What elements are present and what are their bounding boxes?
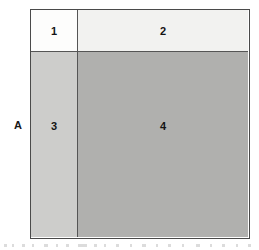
quadrant-cell-2: 2: [78, 10, 248, 52]
scan-artifact-mark: [78, 244, 87, 247]
scan-artifact-mark: [168, 244, 171, 247]
partition-outer-box: 1 2 3 4: [30, 9, 250, 239]
quadrant-cell-1: 1: [31, 10, 78, 52]
scan-artifact-mark: [210, 244, 212, 247]
scan-artifact-mark: [116, 244, 119, 247]
scan-artifact-mark: [142, 244, 146, 247]
quadrant-diagram-figure: A 1 2 3 4: [0, 0, 259, 250]
scan-artifact-strip: [0, 241, 259, 249]
scan-artifact-mark: [32, 244, 34, 247]
quadrant-label-2: 2: [160, 26, 166, 37]
scan-artifact-mark: [22, 244, 25, 247]
scan-artifact-mark: [56, 244, 58, 247]
scan-artifact-mark: [12, 244, 14, 247]
scan-artifact-mark: [44, 244, 48, 247]
scan-artifact-mark: [182, 244, 184, 247]
scan-artifact-mark: [104, 244, 106, 247]
scan-artifact-mark: [236, 244, 238, 247]
axis-label-a: A: [8, 117, 28, 133]
scan-artifact-mark: [4, 244, 7, 247]
quadrant-cell-4: 4: [78, 52, 248, 237]
scan-artifact-mark: [156, 244, 158, 247]
scan-artifact-mark: [94, 244, 97, 247]
scan-artifact-mark: [248, 244, 251, 247]
scan-artifact-mark: [196, 244, 200, 247]
scan-artifact-mark: [66, 244, 69, 247]
scan-artifact-mark: [130, 244, 132, 247]
quadrant-label-3: 3: [51, 121, 57, 132]
quadrant-label-4: 4: [160, 121, 166, 132]
quadrant-cell-3: 3: [31, 52, 78, 237]
scan-artifact-mark: [222, 244, 225, 247]
quadrant-label-1: 1: [51, 26, 57, 37]
